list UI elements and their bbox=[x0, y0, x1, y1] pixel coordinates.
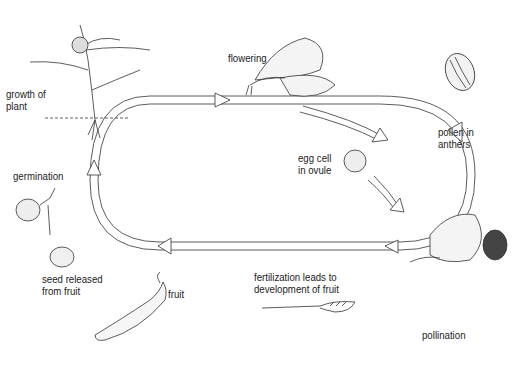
label-line: from fruit bbox=[42, 285, 103, 297]
label-line: pollination bbox=[422, 329, 466, 341]
label-fertilization: fertilization leads to development of fr… bbox=[254, 271, 339, 295]
label-flowering: flowering bbox=[228, 52, 267, 64]
label-fruit: fruit bbox=[168, 288, 184, 300]
fruit-pod-icon bbox=[95, 272, 166, 340]
label-line: flowering bbox=[228, 52, 267, 64]
label-line: development of fruit bbox=[254, 283, 339, 295]
label-pollen: pollen in anthers bbox=[438, 126, 474, 150]
label-germination: germination bbox=[13, 170, 63, 182]
label-line: in ovule bbox=[298, 164, 331, 176]
plant-icon bbox=[30, 25, 150, 140]
label-line: pollen in bbox=[438, 126, 474, 138]
label-line: egg cell bbox=[298, 152, 331, 164]
pollen-icon bbox=[440, 49, 479, 94]
label-line: fruit bbox=[168, 288, 184, 300]
cycle-loop bbox=[90, 96, 475, 250]
egg-cell-icon bbox=[344, 150, 366, 172]
label-line: fertilization leads to bbox=[254, 271, 339, 283]
label-line: plant bbox=[6, 100, 46, 112]
life-cycle-diagram: growth of plant flowering pollen in anth… bbox=[0, 0, 526, 365]
label-line: growth of bbox=[6, 88, 46, 100]
label-egg: egg cell in ovule bbox=[298, 152, 331, 176]
germinating-seed-icon bbox=[16, 188, 55, 235]
label-pollination: pollination bbox=[422, 329, 466, 341]
developing-fruit-icon bbox=[262, 302, 355, 313]
label-line: seed released bbox=[42, 273, 103, 285]
label-line: anthers bbox=[438, 138, 474, 150]
label-line: germination bbox=[13, 170, 63, 182]
arrow-left-icon-2 bbox=[158, 238, 171, 254]
pollination-flower-icon bbox=[410, 214, 507, 262]
flower-icon bbox=[246, 38, 335, 96]
label-growth: growth of plant bbox=[6, 88, 46, 112]
cycle-arrows bbox=[87, 93, 462, 254]
arrow-right-icon bbox=[215, 93, 230, 107]
label-seed: seed released from fruit bbox=[42, 273, 103, 297]
seed-icon bbox=[50, 247, 74, 267]
